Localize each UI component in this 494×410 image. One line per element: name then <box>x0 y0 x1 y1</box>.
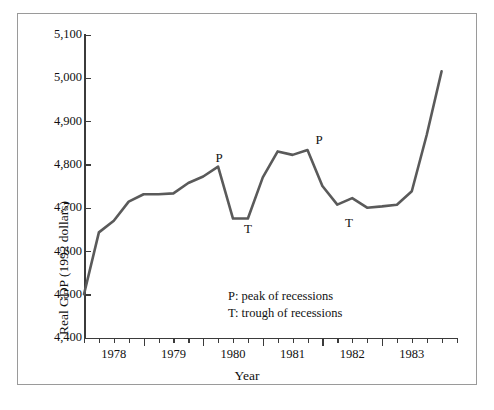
y-axis-title: Real GDP (1992 dollars) <box>56 168 72 368</box>
y-axis-title-holder: Real GDP (1992 dollars) <box>26 80 46 300</box>
legend-entry-peak: P: peak of recessions <box>228 288 333 304</box>
annotation-peak-2: P <box>311 133 327 146</box>
chart-figure: 5,100 5,000 4,900 4,800 4,700 4,600 4,50… <box>0 0 494 410</box>
legend-entry-trough: T: trough of recessions <box>228 305 342 321</box>
gdp-line-series <box>84 71 442 294</box>
plot-area: 5,100 5,000 4,900 4,800 4,700 4,600 4,50… <box>0 0 494 410</box>
series-svg <box>0 0 494 410</box>
annotation-peak-1: P <box>211 151 227 164</box>
annotation-trough-1: T <box>240 222 256 235</box>
annotation-trough-2: T <box>341 216 357 229</box>
x-axis-title: Year <box>187 368 307 384</box>
